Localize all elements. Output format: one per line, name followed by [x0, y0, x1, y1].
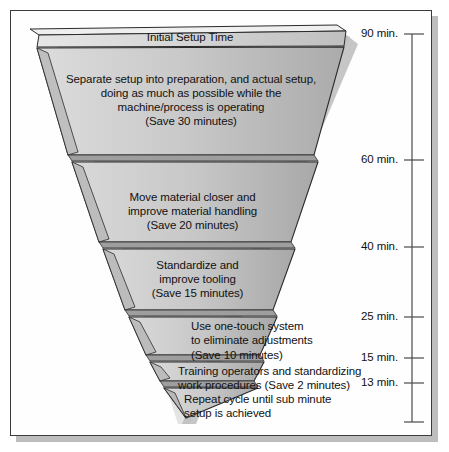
funnel-segment-label-repeat-cycle: Repeat cycle until sub minute setup is a…: [184, 392, 369, 421]
funnel-segment-label-separate-setup: Separate setup into preparation, and act…: [48, 72, 334, 128]
axis-tick-label-15: 15 min.: [326, 351, 398, 363]
axis-tick-label-60: 60 min.: [326, 153, 398, 165]
axis-tick-label-25: 25 min.: [326, 310, 398, 322]
axis-tick-label-90: 90 min.: [326, 27, 398, 39]
funnel-band-label-initial-setup-time: Initial Setup Time: [40, 30, 340, 44]
time-axis: [404, 34, 424, 422]
funnel-diagram-page: Initial Setup Time Separate setup into p…: [0, 0, 449, 452]
axis-tick-label-13: 13 min.: [326, 376, 398, 388]
axis-tick-label-40: 40 min.: [326, 240, 398, 252]
funnel-segment-label-standardize-tooling: Standardize and improve tooling (Save 15…: [115, 258, 280, 300]
funnel-segment-label-move-material: Move material closer and improve materia…: [85, 190, 300, 232]
